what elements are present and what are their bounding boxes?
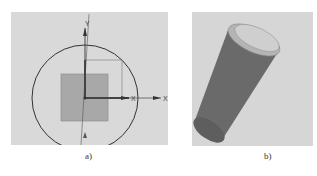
y-arrow-icon [83,28,87,36]
x-arrow-icon [153,96,161,100]
caption-b: b) [264,151,272,161]
x-small-label: X [131,95,136,102]
sketch-drawing: Y X X [11,12,168,145]
caption-a: a) [85,151,92,161]
x-axis-label: X [163,95,168,102]
cylinder-drawing [192,12,313,146]
cylinder-panel [192,12,313,146]
sketch-panel: Y X X [11,12,168,145]
y-axis-label: Y [85,20,90,27]
